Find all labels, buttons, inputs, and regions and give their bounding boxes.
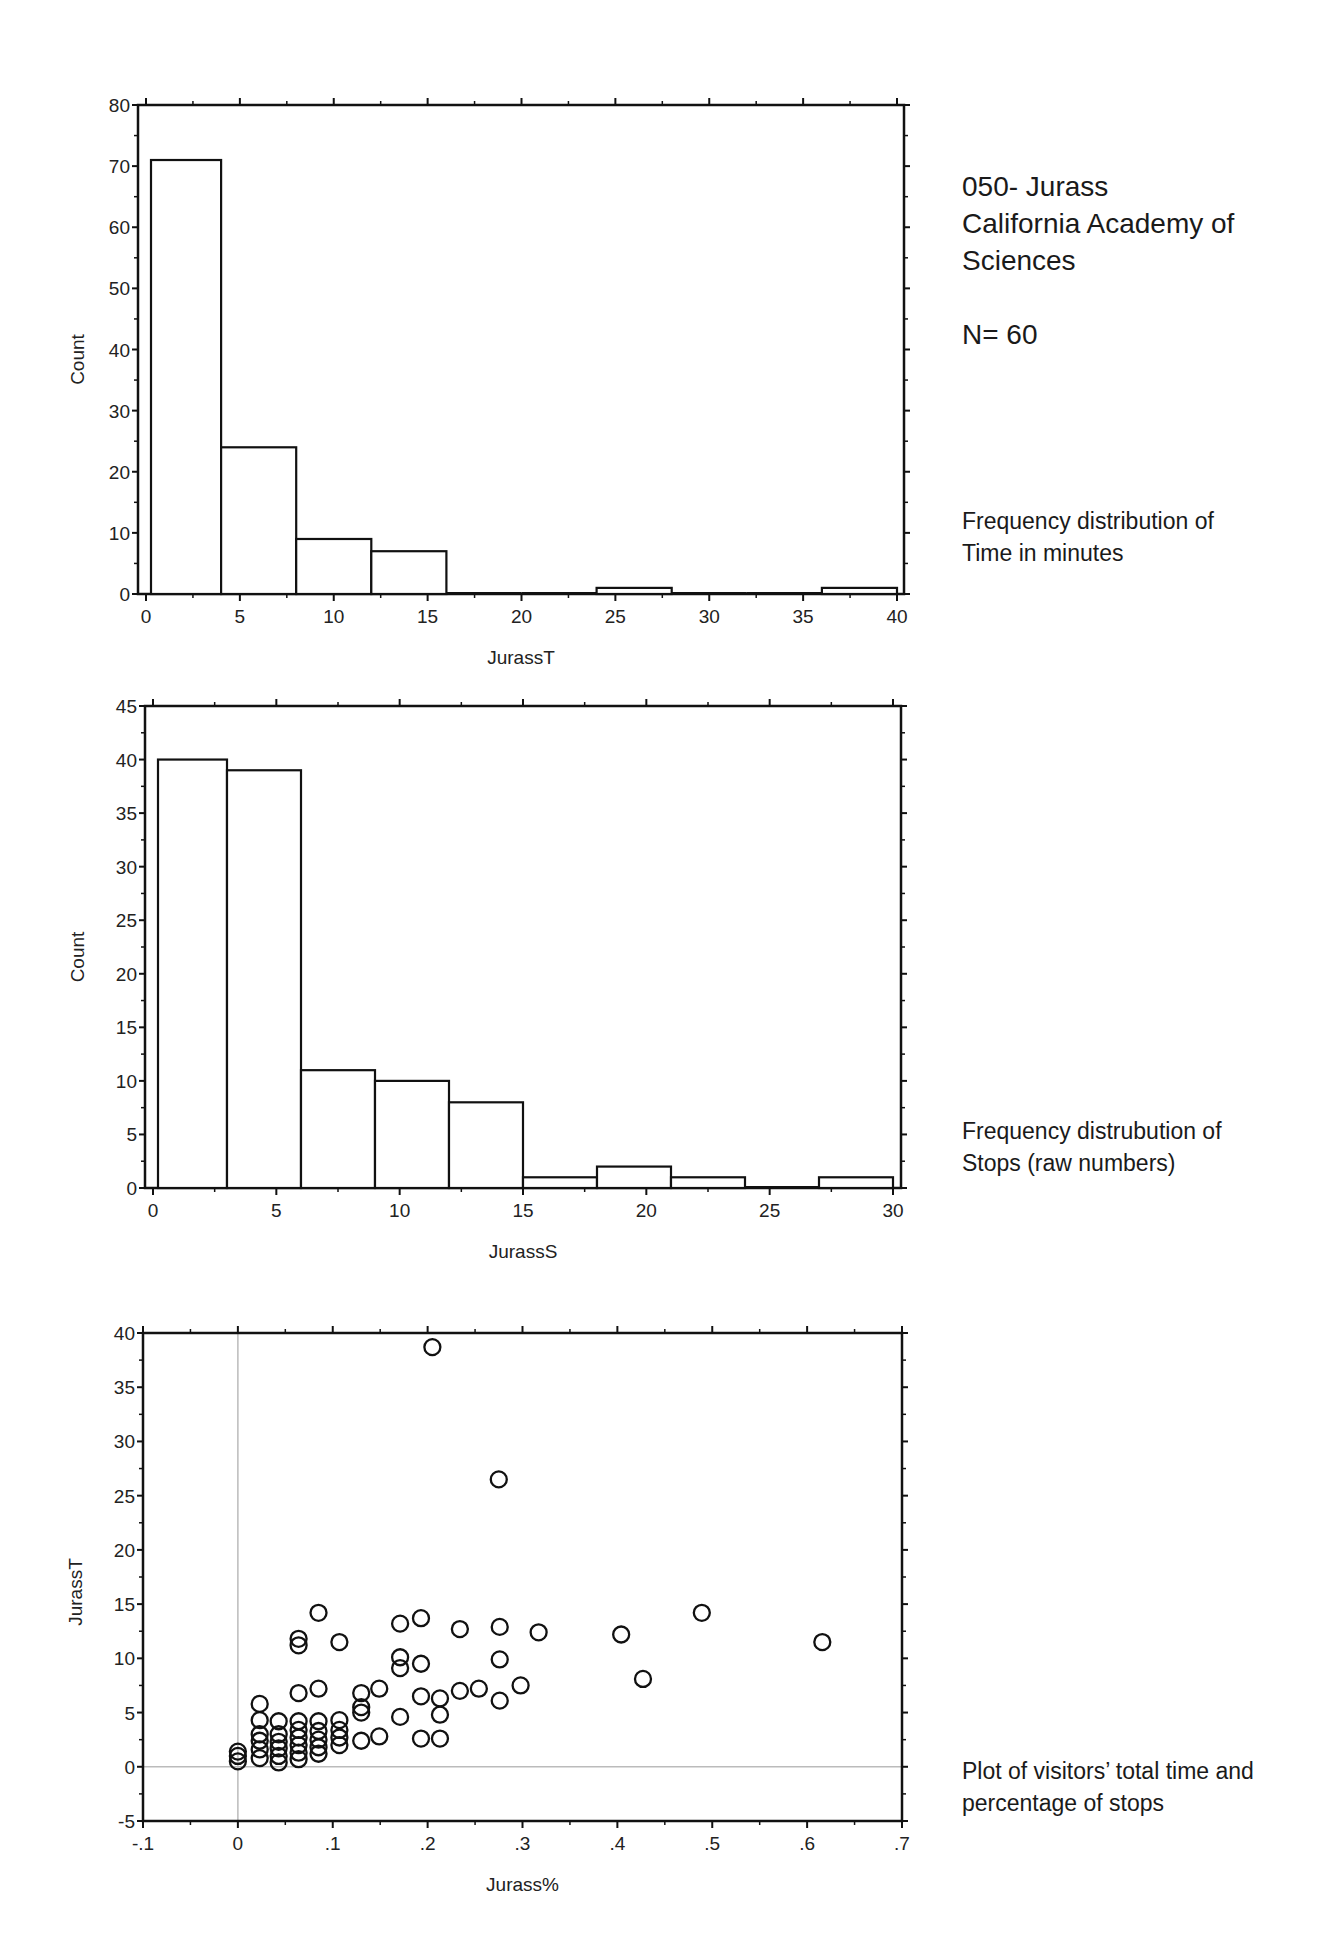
scatter-point [413,1656,429,1672]
scatter-point [392,1616,408,1632]
x-tick-label: 30 [699,606,720,627]
x-tick-label: 0 [233,1833,244,1854]
scatter-point [331,1712,347,1728]
y-axis-title: Count [67,333,88,384]
x-tick-label: .4 [609,1833,625,1854]
scatter-point [371,1728,387,1744]
x-tick-label: -.1 [132,1833,154,1854]
scatter-time-vs-percent: -.10.1.2.3.4.5.6.7-50510152025303540Jura… [65,1323,910,1895]
x-tick-label: 35 [793,606,814,627]
y-tick-label: 15 [116,1017,137,1038]
histogram-bar [296,539,371,594]
y-tick-label: 30 [109,401,130,422]
scatter-point [492,1693,508,1709]
x-tick-label: 30 [882,1200,903,1221]
y-tick-label: 40 [114,1323,135,1344]
y-tick-label: 40 [109,340,130,361]
x-tick-label: .7 [894,1833,910,1854]
y-tick-label: 5 [124,1703,135,1724]
scatter-point [353,1733,369,1749]
y-tick-label: 45 [116,696,137,717]
scatter-point [513,1677,529,1693]
y-tick-label: 5 [126,1124,137,1145]
scatter-point [694,1605,710,1621]
histogram-bar [375,1081,449,1188]
x-tick-label: 20 [511,606,532,627]
x-tick-label: 0 [148,1200,159,1221]
y-tick-label: 70 [109,156,130,177]
scatter-point [371,1681,387,1697]
scatter-point [413,1610,429,1626]
scatter-point [635,1671,651,1687]
y-axis-title: JurassT [65,1558,86,1626]
x-axis-title: JurassS [489,1241,558,1262]
x-tick-label: 25 [605,606,626,627]
histogram-bar [158,760,227,1188]
histogram-bar [301,1070,375,1188]
y-tick-label: 50 [109,278,130,299]
x-axis-title: Jurass% [486,1874,559,1895]
x-tick-label: .1 [325,1833,341,1854]
y-tick-label: 10 [114,1648,135,1669]
scatter-point [392,1660,408,1676]
scatter-point [291,1685,307,1701]
y-tick-label: 35 [114,1377,135,1398]
histogram-bar [597,1167,671,1188]
histogram-bar [597,588,672,594]
scatter-point [424,1339,440,1355]
x-tick-label: 20 [636,1200,657,1221]
y-tick-label: 30 [116,857,137,878]
histogram-bar [671,1177,745,1188]
scatter-point [531,1624,547,1640]
scatter-point [252,1696,268,1712]
histogram-time: 051015202530354001020304050607080JurassT… [67,95,910,668]
y-tick-label: 20 [109,462,130,483]
x-tick-label: .3 [515,1833,531,1854]
histogram-bar [449,1102,523,1188]
x-tick-label: 10 [389,1200,410,1221]
x-tick-label: .2 [420,1833,436,1854]
scatter-point [491,1471,507,1487]
scatter-point [613,1626,629,1642]
scatter-point [331,1634,347,1650]
histogram-bar [227,770,301,1188]
x-tick-label: 15 [512,1200,533,1221]
y-tick-label: 10 [116,1071,137,1092]
x-tick-label: 25 [759,1200,780,1221]
scatter-point [452,1683,468,1699]
x-tick-label: 40 [886,606,907,627]
y-tick-label: 20 [116,964,137,985]
histogram-bar [371,551,446,594]
histogram-bar [221,447,296,594]
scatter-point [413,1731,429,1747]
scatter-point [432,1731,448,1747]
histogram-bar [822,588,897,594]
y-tick-label: 0 [119,584,130,605]
y-tick-label: 0 [126,1178,137,1199]
y-tick-label: -5 [118,1811,135,1832]
scatter-point [492,1651,508,1667]
y-tick-label: 15 [114,1594,135,1615]
x-tick-label: 15 [417,606,438,627]
scatter-point [413,1688,429,1704]
x-tick-label: 0 [141,606,152,627]
y-tick-label: 35 [116,803,137,824]
y-tick-label: 30 [114,1431,135,1452]
y-tick-label: 80 [109,95,130,116]
scatter-point [311,1681,327,1697]
x-tick-label: .5 [704,1833,720,1854]
x-tick-label: .6 [799,1833,815,1854]
x-tick-label: 5 [271,1200,282,1221]
charts-canvas: 051015202530354001020304050607080JurassT… [0,0,1340,1945]
y-tick-label: 60 [109,217,130,238]
scatter-point [452,1621,468,1637]
scatter-point [492,1619,508,1635]
histogram-bar [819,1177,893,1188]
y-tick-label: 10 [109,523,130,544]
scatter-point [814,1634,830,1650]
y-tick-label: 25 [116,910,137,931]
y-axis-title: Count [67,931,88,982]
x-tick-label: 5 [235,606,246,627]
x-tick-label: 10 [323,606,344,627]
y-tick-label: 0 [124,1757,135,1778]
